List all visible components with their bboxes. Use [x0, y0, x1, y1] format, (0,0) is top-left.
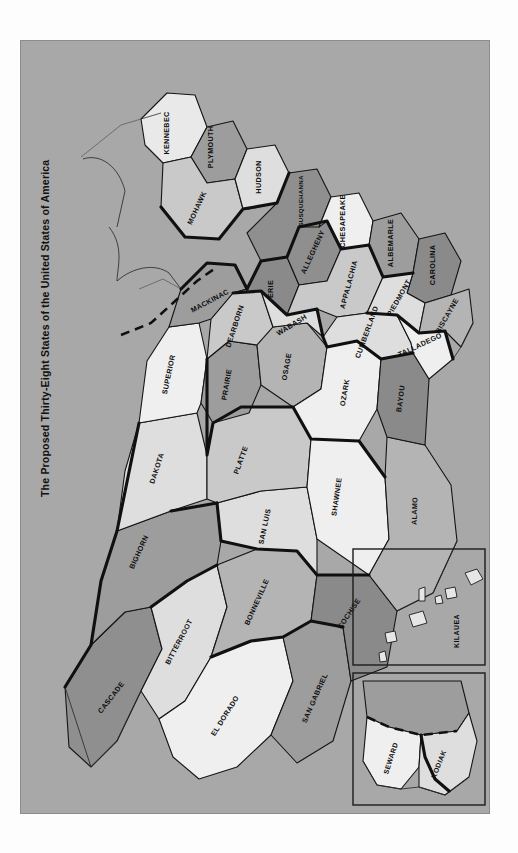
label-albemarle: ALBEMARLE [386, 219, 395, 267]
inset-alaska: SEWARD KODIAK [353, 673, 485, 805]
map-graphic: KENNEBEC PLYMOUTH MOHAWK HUDSON SUSQUEHA… [21, 41, 489, 813]
label-chesapeake: CHESAPEAKE [338, 194, 347, 247]
label-erie: ERIE [266, 280, 275, 298]
label-susquehanna: SUSQUEHANNA [297, 175, 304, 227]
label-hudson: HUDSON [254, 160, 263, 193]
label-kennebec: KENNEBEC [162, 111, 171, 154]
label-carolina: CAROLINA [428, 245, 437, 286]
state-shawnee[interactable] [307, 439, 389, 575]
map-poster: The Proposed Thirty-Eight States of the … [0, 0, 518, 853]
map-plate: The Proposed Thirty-Eight States of the … [20, 40, 490, 814]
label-kilauea: KILAUEA [453, 614, 460, 648]
label-alamo: ALAMO [410, 497, 420, 525]
label-plymouth: PLYMOUTH [206, 126, 215, 168]
